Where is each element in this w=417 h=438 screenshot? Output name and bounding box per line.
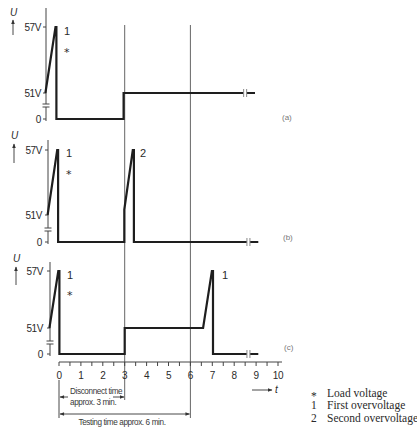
y-axis-label: U: [10, 7, 18, 18]
second-overvoltage-marker: 2: [140, 147, 146, 159]
x-tick-label: 6: [188, 370, 194, 381]
y-axis-label: U: [13, 253, 21, 264]
waveform-b: [48, 150, 259, 242]
x-tick-label: 1: [78, 370, 84, 381]
first-overvoltage-marker: 1: [67, 269, 73, 281]
legend-symbol-first: 1: [311, 399, 317, 411]
panel-b: U 57V 51V 0 1 * 2 (b): [11, 130, 293, 248]
waveform-c: [49, 271, 258, 354]
load-voltage-marker: *: [66, 168, 72, 181]
y-tick-51v: 51V: [26, 323, 43, 334]
first-overvoltage-marker: 1: [64, 25, 70, 37]
y-tick-57v: 57V: [24, 22, 41, 33]
x-tick-label: 10: [273, 370, 284, 381]
testing-time-label: Testing time approx. 6 min.: [78, 418, 165, 427]
x-tick-label: 9: [254, 370, 260, 381]
x-tick-label: 0: [56, 370, 62, 381]
diagram-geometry: [43, 8, 283, 418]
legend-symbol-second: 2: [311, 412, 317, 424]
legend-text-first: First overvoltage: [327, 399, 405, 412]
disconnect-time-label: Disconnect time: [70, 387, 123, 396]
panel-c: U 57V 51V 0 1 * 1 (c): [13, 253, 294, 360]
y-tick-57v: 57V: [26, 266, 43, 277]
x-tick-label: 2: [100, 370, 106, 381]
panel-label-a: (a): [282, 113, 292, 122]
waveform-a: [45, 27, 255, 119]
x-tick-label: 3: [122, 370, 128, 381]
y-tick-0: 0: [38, 349, 44, 360]
x-tick-label: 5: [166, 370, 172, 381]
load-voltage-marker: *: [67, 289, 73, 302]
x-tick-label: 8: [232, 370, 238, 381]
legend-text-second: Second overvoltage: [327, 412, 417, 425]
panel-label-b: (b): [283, 233, 293, 242]
y-tick-51v: 51V: [25, 210, 42, 221]
x-axis-label: t: [275, 384, 279, 395]
panel-label-c: (c): [284, 343, 294, 352]
x-tick-label: 7: [210, 370, 216, 381]
y-tick-51v: 51V: [24, 88, 41, 99]
first-overvoltage-marker: 1: [66, 147, 72, 159]
y-tick-0: 0: [37, 237, 43, 248]
y-tick-57v: 57V: [25, 145, 42, 156]
load-voltage-marker: *: [64, 46, 70, 59]
disconnect-time-approx: approx. 3 min.: [70, 398, 116, 407]
x-tick-label: 4: [144, 370, 150, 381]
y-tick-0: 0: [36, 114, 42, 125]
late-overvoltage-marker: 1: [222, 269, 228, 281]
legend: * Load voltage 1 First overvoltage 2 Sec…: [311, 387, 417, 425]
y-axis-label: U: [11, 130, 19, 141]
panel-a: U 57V 51V 0 1 * (a): [10, 7, 292, 125]
overvoltage-test-diagram: U 57V 51V 0 1 * (a) U 57V 51V 0 1 * 2 (b…: [0, 0, 417, 438]
